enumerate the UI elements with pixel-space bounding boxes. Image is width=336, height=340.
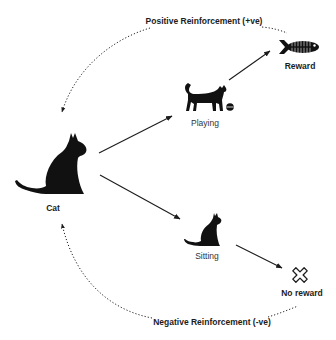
arrow-cat-to-playing: [99, 116, 172, 153]
negative-reinforcement-loop: [62, 224, 298, 318]
positive-reinforcement-label: Positive Reinforcement (+ve): [146, 17, 263, 26]
cat-label: Cat: [46, 204, 60, 213]
sitting-label: Sitting: [195, 252, 219, 261]
sitting-cat-large-icon: [15, 133, 87, 194]
negative-reinforcement-label: Negative Reinforcement (-ve): [153, 318, 271, 327]
arrow-sitting-to-no-reward: [236, 245, 282, 268]
positive-reinforcement-loop: [62, 27, 287, 112]
walking-cat-icon: [185, 83, 226, 111]
x-icon: [289, 264, 312, 287]
arrow-cat-to-sitting: [100, 175, 180, 219]
no-reward-label: No reward: [281, 289, 323, 298]
playing-label: Playing: [191, 119, 219, 128]
arrow-playing-to-reward: [229, 51, 270, 80]
sitting-cat-small-icon: [184, 213, 221, 246]
fish-icon: [279, 40, 319, 54]
reward-label: Reward: [285, 62, 316, 71]
ball-icon: [226, 103, 234, 111]
